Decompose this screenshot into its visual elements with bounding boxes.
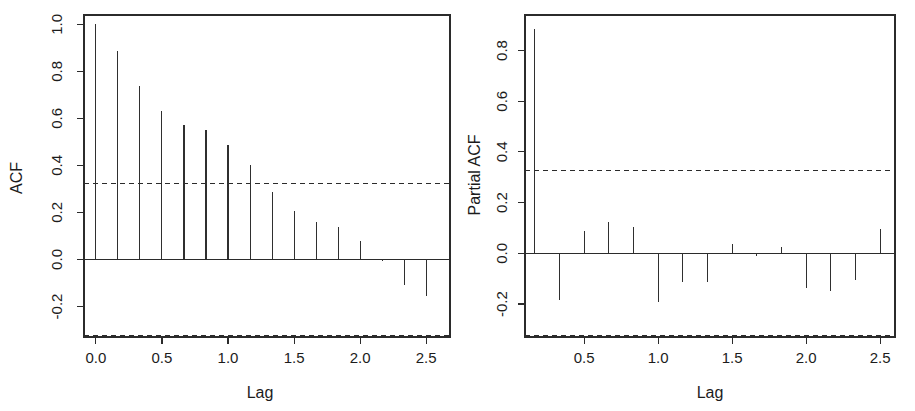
- x-tick-label: 1.0: [218, 349, 239, 366]
- y-tick-label: 0.4: [49, 155, 66, 176]
- x-tick-label: 1.5: [284, 349, 305, 366]
- acf-panel: 1.00.80.60.40.20.0-0.20.00.51.01.52.02.5…: [0, 0, 460, 411]
- plot-box: [84, 15, 450, 337]
- y-tick-label: 0.6: [494, 91, 511, 112]
- acf-svg: 1.00.80.60.40.20.0-0.20.00.51.01.52.02.5…: [0, 0, 460, 411]
- x-tick-label: 0.5: [152, 349, 173, 366]
- acf-x-axis-title: Lag: [247, 384, 274, 401]
- y-tick-label: 1.0: [49, 14, 66, 35]
- pacf-y-axis-title: Partial ACF: [466, 134, 483, 215]
- acf-pacf-figure: 1.00.80.60.40.20.0-0.20.00.51.01.52.02.5…: [0, 0, 915, 411]
- x-tick-label: 1.5: [722, 349, 743, 366]
- x-tick-label: 2.0: [350, 349, 371, 366]
- x-tick-label: 0.5: [574, 349, 595, 366]
- x-tick-label: 2.5: [870, 349, 891, 366]
- plot-box: [525, 15, 895, 337]
- pacf-x-axis-title: Lag: [697, 384, 724, 401]
- x-tick-label: 2.5: [416, 349, 437, 366]
- y-tick-label: 0.2: [49, 202, 66, 223]
- y-tick-label: 0.0: [494, 243, 511, 264]
- y-tick-label: 0.6: [49, 108, 66, 129]
- x-tick-label: 0.0: [85, 349, 106, 366]
- y-tick-label: -0.2: [49, 294, 66, 320]
- pacf-panel: 0.80.60.40.20.0-0.20.51.01.52.02.5 Parti…: [455, 0, 915, 411]
- x-tick-label: 2.0: [796, 349, 817, 366]
- x-tick-label: 1.0: [648, 349, 669, 366]
- y-tick-label: 0.2: [494, 192, 511, 213]
- y-tick-label: 0.8: [494, 40, 511, 61]
- acf-y-axis-title: ACF: [8, 162, 25, 194]
- y-tick-label: 0.0: [49, 249, 66, 270]
- pacf-svg: 0.80.60.40.20.0-0.20.51.01.52.02.5 Parti…: [455, 0, 915, 411]
- y-tick-label: -0.2: [494, 291, 511, 317]
- y-tick-label: 0.8: [49, 61, 66, 82]
- y-tick-label: 0.4: [494, 141, 511, 162]
